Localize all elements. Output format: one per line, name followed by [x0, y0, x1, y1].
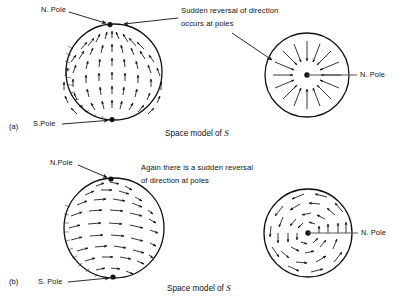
panel-a-north-pole-label: N. Pole [41, 5, 66, 16]
panel-a-meridian-arrows [64, 31, 161, 114]
panel-b-annotation-line1: Again there is a sudden reversal [141, 163, 253, 174]
panel-a-rim-hatching [65, 46, 103, 119]
panel-a-caption-symbol: S [224, 128, 229, 138]
panel-b-leader-lines [68, 165, 109, 282]
panel-b-north-pole-label: N.Pole [50, 158, 73, 169]
panel-b-south-pole-label: S. Pole [38, 277, 63, 288]
panel-b-sphere [64, 176, 164, 279]
panel-a-north-pole-dot [107, 22, 112, 27]
panel-a-caption-text: Space model of [165, 129, 222, 138]
panel-b-caption: Space model of S [167, 283, 231, 293]
panel-a-annotation-line2: occurs at poles [181, 19, 234, 30]
panel-a-annotation-line1: Sudden reversal of direction [181, 6, 278, 17]
panel-b-caption-text: Space model of [167, 284, 224, 293]
panel-a-id: (a) [9, 122, 18, 131]
panel-b-id: (b) [9, 277, 18, 286]
panel-b-annotation-line2: of direction at poles [141, 176, 209, 187]
panel-b-parallel-arrows [69, 182, 158, 274]
panel-a-polar-north-pole-label: N. Pole [360, 70, 385, 81]
panel-a-polar-view [265, 33, 357, 117]
panel-a-caption: Space model of S [165, 128, 229, 138]
panel-b-south-pole-dot [110, 274, 115, 279]
panel-b-caption-symbol: S [226, 283, 231, 293]
vector-field-figure [0, 0, 405, 307]
panel-a-sphere [64, 22, 162, 122]
panel-a-south-pole-dot [109, 117, 114, 122]
panel-b-polar-north-pole-label: N. Pole [361, 228, 386, 239]
panel-b-polar-view [264, 189, 358, 277]
panel-b-rim-hatching [64, 205, 97, 277]
panel-a-south-pole-label: S.Pole [33, 119, 55, 130]
panel-b-north-pole-dot [108, 176, 113, 181]
